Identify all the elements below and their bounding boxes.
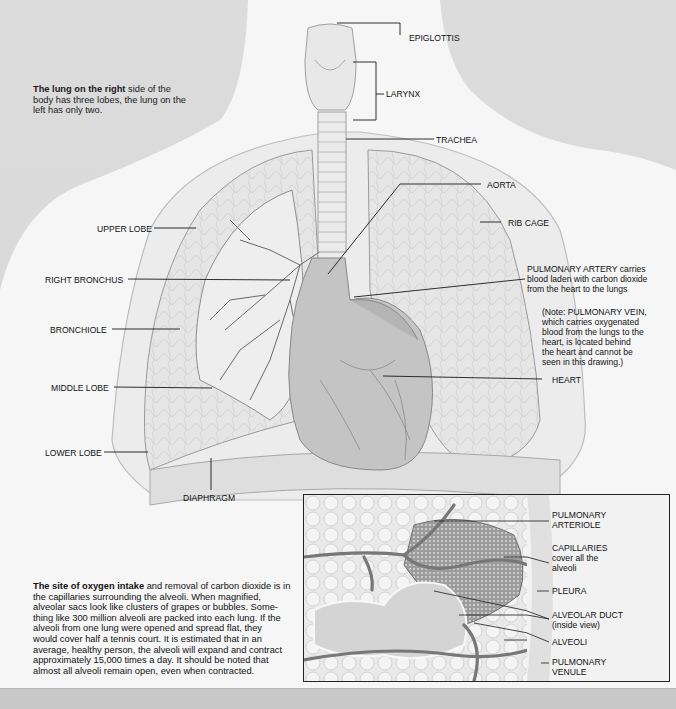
- note-line5: the heart and cannot be: [542, 347, 672, 357]
- paragraph-line: approximately 15,000 times a day. It sho…: [33, 655, 305, 666]
- label-pleura: PLEURA: [552, 586, 586, 596]
- pulmonary-arteriole-line1: PULMONARY: [552, 510, 606, 520]
- oxygen-intake-paragraph: The site of oxygen intake and removal of…: [33, 581, 305, 676]
- note-line3: blood from the lungs to the: [542, 327, 672, 337]
- pa-line1-rest: carries: [617, 264, 645, 274]
- alveoli-illustration: [304, 495, 528, 681]
- alveoli-inset: [303, 494, 529, 682]
- alveolar-duct-line2: (inside view): [552, 620, 623, 630]
- label-epiglottis: EPIGLOTTIS: [409, 33, 460, 43]
- note-line6: seen in this drawing.): [542, 357, 672, 367]
- label-pulmonary-venule: PULMONARY VENULE: [552, 657, 606, 677]
- pulmonary-venule-line2: VENULE: [552, 667, 606, 677]
- pa-line3: from the heart to the lungs: [527, 284, 676, 294]
- capillaries-line3: alveoli: [552, 563, 607, 573]
- label-diaphragm: DIAPHRAGM: [183, 493, 235, 503]
- label-larynx: LARYNX: [386, 89, 420, 99]
- capillaries-line1: CAPILLARIES: [552, 543, 607, 553]
- capillaries-line2: cover all the: [552, 553, 607, 563]
- label-alveolar-duct: ALVEOLAR DUCT (inside view): [552, 610, 623, 630]
- paragraph-line: alveolar sacs look like clusters of grap…: [33, 602, 305, 613]
- inset-label-panel: PULMONARY ARTERIOLE CAPILLARIES cover al…: [527, 494, 670, 682]
- paragraph-line: would cover half a tennis court. It is e…: [33, 634, 305, 645]
- paragraph-line: the capillaries surrounding the alveoli.…: [33, 592, 305, 603]
- paragraph-line: and removal of carbon dioxide is in: [144, 581, 290, 591]
- paragraph-bold: The site of oxygen intake: [33, 581, 144, 591]
- label-trachea: TRACHEA: [436, 135, 477, 145]
- label-capillaries: CAPILLARIES cover all the alveoli: [552, 543, 607, 573]
- note-line4: heart, is located behind: [542, 337, 672, 347]
- pulmonary-venule-line1: PULMONARY: [552, 657, 606, 667]
- paragraph-line: average, healthy person, the alveoli wil…: [33, 645, 305, 656]
- page-bottom-band: [0, 688, 676, 709]
- label-lower-lobe: LOWER LOBE: [45, 448, 102, 458]
- label-middle-lobe: MIDDLE LOBE: [51, 383, 109, 393]
- label-upper-lobe: UPPER LOBE: [97, 224, 152, 234]
- note-line2: which carries oxygenated: [542, 317, 672, 327]
- label-heart: HEART: [552, 375, 581, 385]
- intro-text: The lung on the right side of the body h…: [33, 84, 193, 116]
- label-pulmonary-artery: PULMONARY ARTERY carries blood laden wit…: [527, 264, 676, 294]
- label-alveoli: ALVEOLI: [552, 637, 587, 647]
- pulmonary-vein-note: (Note: PULMONARY VEIN, which carries oxy…: [542, 307, 672, 367]
- label-pulmonary-arteriole: PULMONARY ARTERIOLE: [552, 510, 606, 530]
- paragraph-line: alveoli from one lung were opened and sp…: [33, 623, 305, 634]
- paragraph-line: almost all alveoli remain open, even whe…: [33, 666, 305, 677]
- intro-bold: The lung on the right: [33, 84, 125, 94]
- note-line1: (Note: PULMONARY VEIN,: [542, 307, 672, 317]
- label-aorta: AORTA: [487, 180, 516, 190]
- paragraph-line: thing like 300 million alveoli are packe…: [33, 613, 305, 624]
- label-right-bronchus: RIGHT BRONCHUS: [45, 275, 123, 285]
- label-bronchiole: BRONCHIOLE: [50, 325, 107, 335]
- pa-line2: blood laden with carbon dioxide: [527, 274, 676, 284]
- label-rib-cage: RIB CAGE: [508, 218, 549, 228]
- pulmonary-arteriole-line2: ARTERIOLE: [552, 520, 606, 530]
- pa-title: PULMONARY ARTERY: [527, 264, 617, 274]
- alveolar-duct-line1: ALVEOLAR DUCT: [552, 610, 623, 620]
